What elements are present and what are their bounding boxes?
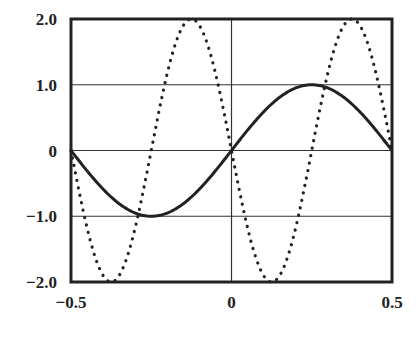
y-tick-label: −2.0 [26,273,57,292]
x-tick-label: −0.5 [56,293,87,312]
y-tick-label: 1.0 [36,76,57,95]
x-tick-label: 0 [227,293,236,312]
y-axis-tick-labels: 2.01.00−1.0−2.0 [26,10,57,292]
x-axis-tick-labels: −0.500.5 [56,293,403,312]
sine-chart: 2.01.00−1.0−2.0 −0.500.5 [0,0,419,339]
y-tick-label: 0 [49,142,58,161]
y-tick-label: 2.0 [36,10,57,29]
x-tick-label: 0.5 [381,293,402,312]
y-tick-label: −1.0 [26,207,57,226]
